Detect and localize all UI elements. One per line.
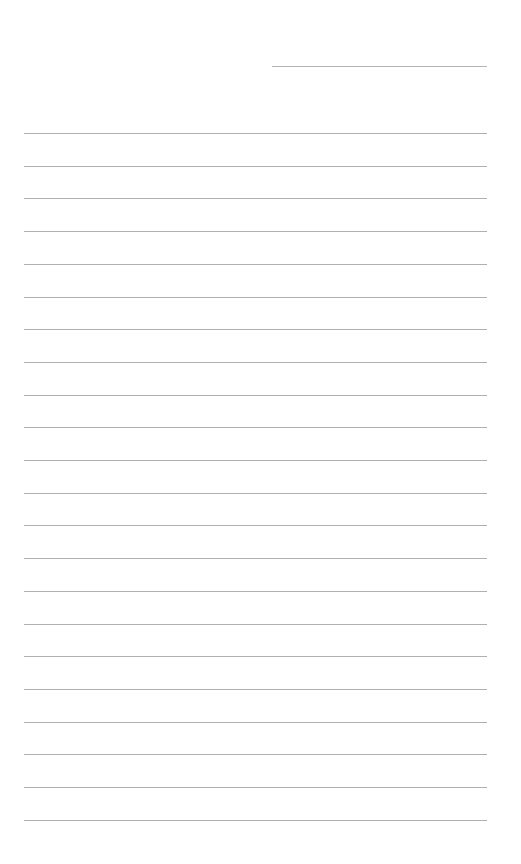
writing-line — [24, 362, 487, 363]
writing-line — [24, 133, 487, 134]
writing-line — [24, 493, 487, 494]
writing-line — [24, 525, 487, 526]
writing-line — [24, 231, 487, 232]
writing-line — [24, 722, 487, 723]
writing-line — [24, 198, 487, 199]
writing-line — [24, 264, 487, 265]
writing-line — [24, 558, 487, 559]
writing-line — [24, 656, 487, 657]
writing-line — [24, 460, 487, 461]
writing-line — [24, 297, 487, 298]
lined-paper-page — [0, 0, 521, 864]
writing-line — [24, 754, 487, 755]
writing-line — [24, 329, 487, 330]
writing-line — [24, 787, 487, 788]
writing-line — [24, 427, 487, 428]
writing-line — [24, 395, 487, 396]
writing-line — [24, 166, 487, 167]
header-field-rule — [272, 66, 487, 67]
writing-line — [24, 820, 487, 821]
writing-line — [24, 624, 487, 625]
writing-line — [24, 689, 487, 690]
writing-line — [24, 591, 487, 592]
